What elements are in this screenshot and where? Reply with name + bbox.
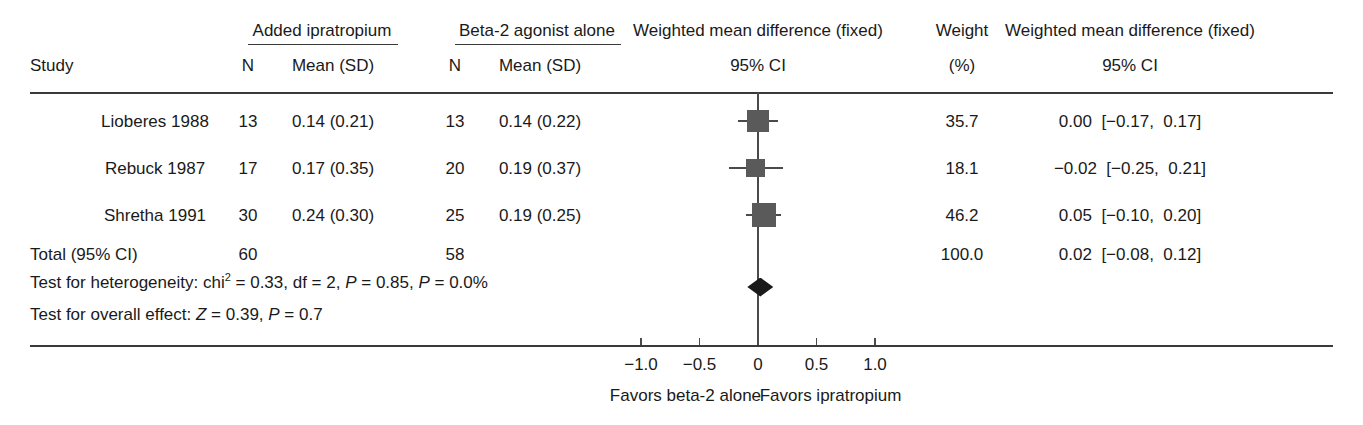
axis-tick [757, 338, 759, 345]
row-weight: 46.2 [945, 207, 978, 224]
axis-tick [640, 338, 642, 345]
total-weight: 100.0 [941, 246, 984, 263]
row-n-group2: 25 [446, 207, 465, 224]
row-effect: −0.02 [−0.25, 0.21] [1054, 160, 1206, 177]
row-n-group1: 17 [239, 160, 258, 177]
row-mean-sd-group2: 0.19 (0.37) [499, 160, 581, 177]
row-mean-sd-group1: 0.24 (0.30) [292, 207, 374, 224]
forest-plot: Added ipratropiumBeta-2 agonist aloneWei… [0, 0, 1363, 425]
table-rule-top [30, 92, 1333, 94]
axis-left-label: Favors beta-2 alone [610, 387, 761, 404]
header-plot-sub: 95% CI [730, 57, 786, 74]
row-marker-square [747, 110, 769, 132]
table-rule-bottom [30, 345, 1333, 347]
total-n-group1: 60 [239, 246, 258, 263]
heterogeneity-test-text: Test for heterogeneity: chi2 = 0.33, df … [30, 272, 488, 291]
axis-tick-label: 1.0 [863, 356, 887, 373]
row-n-group2: 13 [446, 113, 465, 130]
header-added-ipratropium: Added ipratropium [253, 22, 392, 39]
header-weight-sub: (%) [949, 57, 975, 74]
row-study-name: Lioberes 1988 [101, 113, 209, 130]
summary-diamond [747, 278, 773, 297]
header-effect-title: Weighted mean difference (fixed) [1005, 22, 1255, 39]
row-marker-square [746, 159, 765, 178]
row-effect: 0.05 [−0.10, 0.20] [1059, 207, 1201, 224]
header-weight: Weight [936, 22, 989, 39]
axis-tick [699, 338, 701, 345]
row-mean-sd-group1: 0.14 (0.21) [292, 113, 374, 130]
header-underline-group2 [455, 44, 621, 45]
axis-tick-label: −0.5 [683, 356, 717, 373]
row-study-name: Shretha 1991 [104, 207, 206, 224]
header-plot-title: Weighted mean difference (fixed) [633, 22, 883, 39]
header-mean-sd-1: Mean (SD) [292, 57, 374, 74]
row-marker-square [752, 203, 776, 227]
row-n-group1: 13 [239, 113, 258, 130]
header-n-2: N [449, 57, 461, 74]
row-mean-sd-group1: 0.17 (0.35) [292, 160, 374, 177]
header-beta2-alone: Beta-2 agonist alone [459, 22, 615, 39]
axis-tick-label: −1.0 [624, 356, 658, 373]
axis-tick-label: 0.5 [805, 356, 829, 373]
row-study-name: Rebuck 1987 [105, 160, 205, 177]
row-n-group1: 30 [239, 207, 258, 224]
total-effect: 0.02 [−0.08, 0.12] [1059, 246, 1201, 263]
axis-right-label: Favors ipratropium [760, 387, 902, 404]
axis-tick [874, 338, 876, 345]
header-underline-group1 [248, 44, 398, 45]
axis-tick [816, 338, 818, 345]
row-weight: 18.1 [945, 160, 978, 177]
header-study: Study [30, 57, 73, 74]
row-mean-sd-group2: 0.14 (0.22) [499, 113, 581, 130]
header-mean-sd-2: Mean (SD) [499, 57, 581, 74]
total-label: Total (95% CI) [30, 246, 138, 263]
row-n-group2: 20 [446, 160, 465, 177]
header-effect-sub: 95% CI [1102, 57, 1158, 74]
row-effect: 0.00 [−0.17, 0.17] [1059, 113, 1201, 130]
overall-effect-test-text: Test for overall effect: Z = 0.39, P = 0… [30, 306, 323, 323]
axis-tick-label: 0 [753, 356, 762, 373]
header-n-1: N [242, 57, 254, 74]
total-n-group2: 58 [446, 246, 465, 263]
row-mean-sd-group2: 0.19 (0.25) [499, 207, 581, 224]
row-weight: 35.7 [945, 113, 978, 130]
